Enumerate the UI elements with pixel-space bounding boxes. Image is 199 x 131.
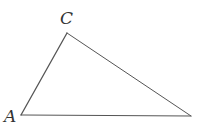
triangle-diagram: A C [0, 0, 199, 131]
vertex-label-c: C [60, 8, 73, 28]
side-ab [21, 115, 191, 116]
side-cb [67, 33, 191, 116]
side-ac [21, 33, 67, 115]
vertex-label-a: A [2, 106, 16, 126]
